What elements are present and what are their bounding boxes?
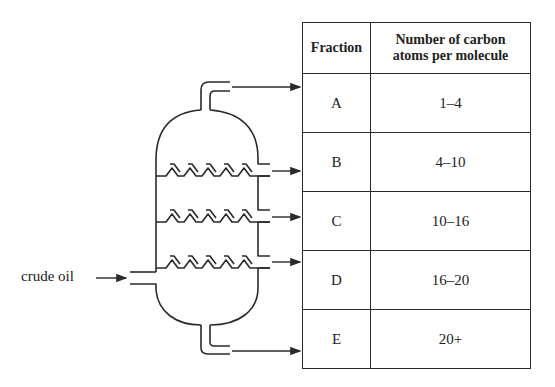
fraction-cell: A (303, 74, 371, 133)
outlet-pipe-a-outer (201, 82, 230, 110)
carbon-atoms-cell: 1–4 (371, 74, 531, 133)
inlet-pipe-bottom (130, 284, 156, 290)
column-left-wall (156, 110, 201, 272)
fractions-table: Fraction Number of carbon atoms per mole… (302, 22, 531, 369)
carbon-atoms-cell: 20+ (371, 310, 531, 369)
fraction-cell: B (303, 133, 371, 192)
fraction-cell: C (303, 192, 371, 251)
table-row: C 10–16 (303, 192, 531, 251)
header-carbon-line1: Number of carbon (395, 32, 505, 47)
table-row: B 4–10 (303, 133, 531, 192)
table-row: A 1–4 (303, 74, 531, 133)
fraction-cell: D (303, 251, 371, 310)
fraction-cell: E (303, 310, 371, 369)
carbon-atoms-cell: 10–16 (371, 192, 531, 251)
header-carbon-line2: atoms per molecule (393, 48, 509, 63)
column-dome-right (210, 110, 258, 158)
header-carbon-atoms: Number of carbon atoms per molecule (371, 23, 531, 74)
crude-oil-label: crude oil (21, 268, 74, 285)
column-dome-bottom (156, 288, 258, 325)
table-row: E 20+ (303, 310, 531, 369)
table-header-row: Fraction Number of carbon atoms per mole… (303, 23, 531, 74)
outlet-pipe-e-inner (210, 325, 230, 346)
outlet-pipe-e-outer (201, 325, 230, 354)
table-row: D 16–20 (303, 251, 531, 310)
header-fraction: Fraction (303, 23, 371, 74)
carbon-atoms-cell: 16–20 (371, 251, 531, 310)
carbon-atoms-cell: 4–10 (371, 133, 531, 192)
outlet-pipe-a-inner (210, 91, 230, 110)
